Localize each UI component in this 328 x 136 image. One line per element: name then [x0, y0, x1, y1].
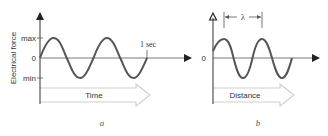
zero-label-a: 0 — [32, 54, 37, 63]
panel-b: Distance 0 λ b — [202, 12, 320, 128]
time-arrow-label: Time — [85, 91, 103, 100]
x-axis-b-arrow-icon — [312, 54, 320, 62]
wave-diagram: Time max 0 min Electrical force 1 sec a … — [0, 0, 328, 136]
min-label: min — [23, 74, 36, 83]
y-axis-label: Electrical force — [9, 31, 18, 84]
wavelength-label: λ — [241, 13, 245, 22]
panel-a: Time max 0 min Electrical force 1 sec a — [9, 12, 192, 128]
sine-wave-b — [213, 39, 292, 78]
y-axis-arrow-icon — [36, 12, 44, 20]
zero-label-b: 0 — [202, 54, 207, 63]
max-label: max — [21, 34, 36, 43]
one-sec-label: 1 sec — [140, 40, 157, 49]
caption-a: a — [100, 118, 105, 128]
x-axis-arrow-icon — [184, 54, 192, 62]
caption-b: b — [256, 118, 261, 128]
distance-arrow-label: Distance — [229, 91, 261, 100]
